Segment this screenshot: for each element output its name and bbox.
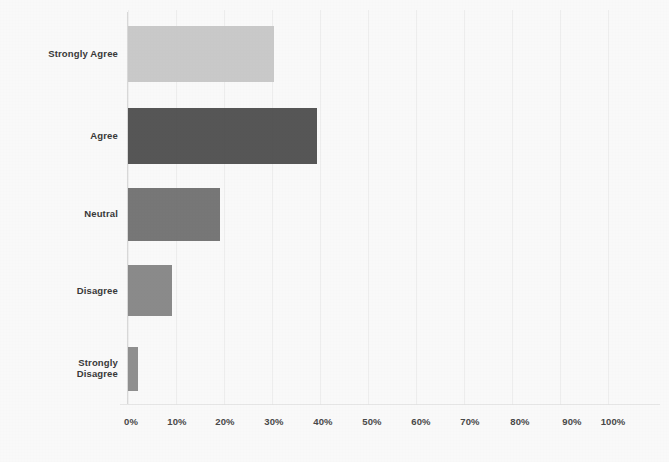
gridline — [368, 10, 369, 405]
x-tick-40: 40% — [313, 416, 332, 427]
bar-neutral — [128, 188, 220, 241]
bar-strongly-agree — [128, 26, 274, 82]
y-label-text-line2: Disagree — [0, 368, 118, 379]
x-tick-50: 50% — [362, 416, 381, 427]
y-label-text: Disagree — [77, 285, 118, 296]
bar-strongly-disagree — [128, 347, 138, 391]
x-tick-100: 100% — [601, 416, 626, 427]
x-tick-80: 80% — [510, 416, 529, 427]
bar-agree — [128, 108, 317, 164]
x-tick-20: 20% — [215, 416, 234, 427]
y-axis-label-strongly-disagree: Strongly Disagree — [0, 357, 118, 379]
x-tick-70: 70% — [460, 416, 479, 427]
horizontal-bar-chart: Strongly Agree Agree Neutral Disagree St… — [0, 0, 669, 462]
y-axis-label-disagree: Disagree — [0, 285, 118, 296]
gridline — [416, 10, 417, 405]
y-axis-label-neutral: Neutral — [0, 208, 118, 219]
y-label-text: Strongly Agree — [48, 48, 118, 59]
gridline — [512, 10, 513, 405]
x-tick-30: 30% — [264, 416, 283, 427]
x-tick-90: 90% — [562, 416, 581, 427]
x-tick-60: 60% — [411, 416, 430, 427]
gridline — [608, 10, 609, 405]
gridline — [464, 10, 465, 405]
y-axis-label-agree: Agree — [0, 130, 118, 141]
y-label-text-line1: Strongly — [0, 357, 118, 368]
x-tick-10: 10% — [167, 416, 186, 427]
gridline — [320, 10, 321, 405]
y-label-text: Agree — [90, 130, 118, 141]
gridline — [560, 10, 561, 405]
y-label-text: Neutral — [84, 208, 118, 219]
bar-disagree — [128, 265, 172, 316]
y-axis-label-strongly-agree: Strongly Agree — [0, 48, 118, 59]
x-tick-0: 0% — [124, 416, 138, 427]
x-axis-line — [120, 404, 660, 405]
